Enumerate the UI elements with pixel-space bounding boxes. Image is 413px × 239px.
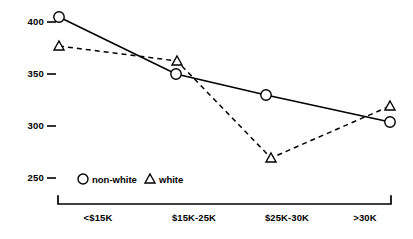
legend-circle-icon bbox=[78, 174, 88, 184]
marker-triangle-white-1 bbox=[172, 56, 182, 65]
chart-figure: 400 350 300 250 <$15K $15K-25K $25K-30K … bbox=[0, 0, 413, 239]
series-non-white bbox=[54, 12, 395, 127]
chart-plot-area bbox=[0, 0, 413, 239]
marker-triangle-white-3 bbox=[385, 101, 395, 110]
legend-item-label-white: white bbox=[159, 174, 183, 185]
y-axis-tick-label-400: 400 bbox=[14, 16, 44, 27]
marker-triangle-white-0 bbox=[54, 41, 64, 50]
x-axis-tick-label-1: $15K-25K bbox=[172, 212, 216, 223]
legend-item-label-non-white: non-white bbox=[92, 174, 137, 185]
x-axis-tick-label-3: >30K bbox=[353, 212, 376, 223]
marker-circle-non-white-2 bbox=[261, 90, 271, 100]
x-axis-tick-label-0: <$15K bbox=[84, 212, 113, 223]
x-axis-tick-label-2: $25K-30K bbox=[265, 212, 309, 223]
y-axis-tick-label-250: 250 bbox=[14, 172, 44, 183]
series-white bbox=[54, 41, 395, 162]
legend-triangle-icon bbox=[145, 174, 155, 183]
marker-circle-non-white-0 bbox=[54, 12, 64, 22]
marker-triangle-white-2 bbox=[266, 153, 276, 162]
marker-circle-non-white-3 bbox=[385, 117, 395, 127]
series-non-white-line bbox=[59, 17, 390, 122]
marker-circle-non-white-1 bbox=[171, 69, 181, 79]
y-axis-tick-label-300: 300 bbox=[14, 120, 44, 131]
x-axis-line bbox=[58, 196, 391, 204]
y-axis-tick-label-350: 350 bbox=[14, 68, 44, 79]
series-white-line bbox=[59, 46, 390, 158]
y-axis-ticks bbox=[47, 22, 56, 178]
